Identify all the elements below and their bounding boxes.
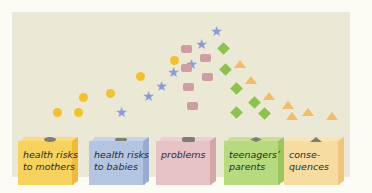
diamond-icon	[219, 63, 232, 76]
box-health-risks-babies: health risks to babies	[89, 137, 149, 185]
diamond-icon	[217, 42, 230, 55]
box-label: teenagers’ parents	[229, 149, 280, 173]
square-icon	[181, 64, 192, 72]
box-teenagers-parents: teenagers’ parents	[224, 137, 284, 185]
triangle-icon	[245, 76, 257, 84]
star-icon: ★	[195, 38, 208, 51]
square-slot-icon	[182, 137, 195, 142]
box-label: problems	[161, 149, 205, 161]
square-icon	[181, 45, 192, 53]
diamond-icon	[230, 82, 243, 95]
triangle-icon	[234, 60, 246, 68]
triangle-icon	[263, 92, 275, 100]
triangle-icon	[302, 108, 314, 116]
square-icon	[183, 83, 194, 91]
circle-slot-icon	[44, 137, 56, 142]
box-health-risks-mothers: health risks to mothers	[18, 137, 78, 185]
box-front	[156, 141, 212, 185]
circle-icon	[136, 72, 145, 81]
circle-icon	[53, 108, 62, 117]
square-icon	[202, 73, 213, 81]
star-icon: ★	[115, 106, 128, 119]
circle-icon	[79, 93, 88, 102]
diamond-icon	[230, 106, 243, 119]
diamond-icon	[248, 96, 261, 109]
square-icon	[187, 102, 198, 110]
diagram-panel: ★ ★ ★ ★ ★ ★ ★ health risks to mothers he…	[12, 12, 350, 177]
box-label: health risks to babies	[94, 149, 149, 173]
star-slot-icon	[115, 138, 127, 141]
triangle-icon	[326, 112, 338, 120]
box-side	[338, 137, 344, 185]
star-icon: ★	[142, 90, 155, 103]
triangle-icon	[286, 112, 298, 120]
star-icon: ★	[155, 80, 168, 93]
box-consequences: conse- quences	[284, 137, 344, 185]
square-icon	[200, 54, 211, 62]
box-side	[210, 137, 216, 185]
circle-icon	[106, 89, 115, 98]
star-icon: ★	[167, 66, 180, 79]
triangle-icon	[282, 101, 294, 109]
box-label: conse- quences	[289, 149, 329, 173]
box-problems: problems	[156, 137, 216, 185]
circle-icon	[74, 108, 83, 117]
box-label: health risks to mothers	[23, 149, 78, 173]
diamond-icon	[258, 107, 271, 120]
star-icon: ★	[210, 25, 223, 38]
